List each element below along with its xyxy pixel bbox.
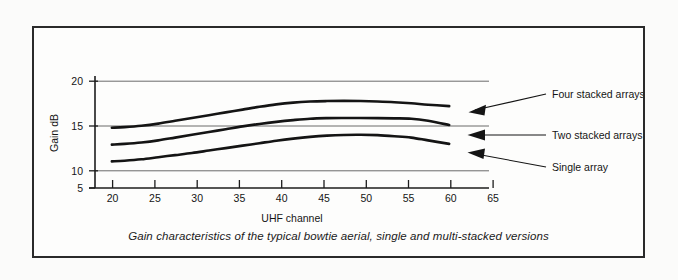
- x-tick-label-35: 35: [234, 192, 246, 204]
- leader-line-four-stacked-arrays: [475, 94, 546, 110]
- x-tick-label-50: 50: [360, 192, 372, 204]
- annotation-label-single-array: Single array: [552, 161, 609, 173]
- arrowhead-four-stacked-arrays: [469, 105, 487, 116]
- gain-chart: 20 15 10 5 Gain dB 20 25 30 35 40: [34, 28, 643, 256]
- arrowhead-single-array: [468, 149, 486, 160]
- annotation-leaders: [468, 94, 547, 167]
- x-tick-label-40: 40: [276, 192, 288, 204]
- y-tick-label-20: 20: [71, 75, 83, 87]
- figure-caption: Gain characteristics of the typical bowt…: [34, 230, 643, 242]
- curve-four-stacked-arrays: [112, 101, 449, 128]
- y-axis-title: Gain dB: [48, 114, 60, 152]
- x-axis-ticks: [113, 180, 494, 188]
- x-axis-tick-labels: 20 25 30 35 40 45 50 55 60 65: [107, 192, 499, 204]
- x-axis-title: UHF channel: [261, 212, 322, 224]
- y-tick-label-5: 5: [77, 182, 83, 194]
- annotation-labels: Four stacked arrays Two stacked arrays S…: [552, 88, 643, 173]
- figure-frame: 20 15 10 5 Gain dB 20 25 30 35 40: [32, 26, 645, 258]
- x-tick-label-30: 30: [191, 192, 203, 204]
- annotation-label-four-stacked-arrays: Four stacked arrays: [552, 88, 643, 100]
- x-tick-label-25: 25: [149, 192, 161, 204]
- x-tick-label-65: 65: [487, 192, 499, 204]
- x-tick-label-60: 60: [445, 192, 457, 204]
- annotation-label-two-stacked-arrays: Two stacked arrays: [552, 129, 642, 141]
- x-tick-label-20: 20: [107, 192, 119, 204]
- x-tick-label-55: 55: [403, 192, 415, 204]
- data-curves: [112, 101, 449, 162]
- y-axis-tick-labels: 20 15 10 5: [71, 75, 83, 194]
- x-tick-label-45: 45: [318, 192, 330, 204]
- y-tick-label-15: 15: [71, 120, 83, 132]
- y-tick-label-10: 10: [71, 165, 83, 177]
- arrowhead-two-stacked-arrays: [468, 130, 486, 141]
- y-axis-ticks: [89, 81, 98, 188]
- leader-line-single-array: [476, 154, 546, 167]
